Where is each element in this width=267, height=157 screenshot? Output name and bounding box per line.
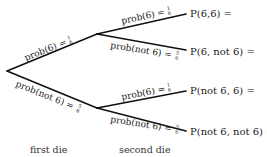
svg-text:6: 6 <box>175 54 179 60</box>
svg-text:prob(not 6) =: prob(not 6) = <box>110 114 173 134</box>
label-lower-not6: prob(not 6) = 5 6 <box>110 113 180 135</box>
svg-text:6: 6 <box>167 86 171 92</box>
svg-text:6: 6 <box>75 107 80 114</box>
svg-text:6: 6 <box>175 128 179 134</box>
stage-label-second-die: second die <box>119 144 171 155</box>
outcome-6-6: P(6,6) = <box>190 8 232 20</box>
svg-text:6: 6 <box>68 38 73 45</box>
label-first-not6: prob(not 6) = 5 6 <box>14 78 82 114</box>
outcome-6-not6: P(6, not 6) = <box>190 46 255 58</box>
outcome-not6-not6: P(not 6, not 6) = <box>190 126 267 138</box>
svg-text:prob(6) =: prob(6) = <box>23 37 68 63</box>
svg-text:6: 6 <box>167 10 171 17</box>
stage-label-first-die: first die <box>30 144 67 155</box>
outcome-not6-6: P(not 6, 6) = <box>190 85 255 97</box>
label-first-6: prob(6) = 1 6 <box>23 34 74 63</box>
svg-text:prob(not 6) =: prob(not 6) = <box>110 40 173 60</box>
